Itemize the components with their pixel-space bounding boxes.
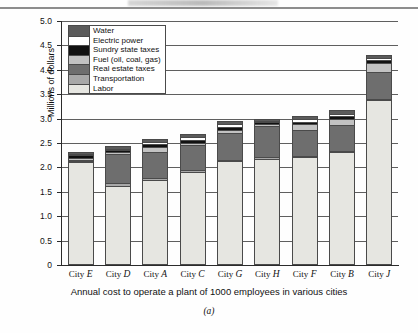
legend-item-water[interactable]: Water (69, 26, 165, 36)
bar-city-g[interactable] (217, 121, 243, 265)
figure-caption: (a) (0, 306, 418, 316)
bar-segment-real-estate-taxes (181, 146, 205, 170)
bar-segment-labor (218, 162, 242, 264)
legend-item-labor[interactable]: Labor (69, 84, 165, 94)
x-axis-title: Annual cost to operate a plant of 1000 e… (0, 286, 418, 297)
y-axis-tick (57, 265, 62, 266)
legend-item-electric-power[interactable]: Electric power (69, 36, 165, 46)
bar-segment-real-estate-taxes (330, 126, 354, 151)
bar-city-a[interactable] (142, 139, 168, 265)
top-horizontal-rule (0, 7, 418, 9)
y-axis-tick-label: 0.5 (18, 236, 52, 246)
legend-label: Labor (90, 84, 117, 94)
legend-label: Electric power (90, 36, 147, 46)
legend-swatch-icon (69, 55, 90, 65)
legend-swatch-icon (69, 36, 90, 46)
y-axis-tick-label: 1.0 (18, 211, 52, 221)
bar-city-e[interactable] (68, 152, 94, 265)
bar-segment-real-estate-taxes (255, 127, 279, 158)
bar-segment-fuel-oil-coal-gas (367, 64, 391, 73)
bar-segment-real-estate-taxes (218, 134, 242, 160)
legend-label: Real estate taxes (90, 64, 159, 74)
bar-segment-labor (106, 187, 130, 264)
y-axis-tick-label: 3.0 (18, 114, 52, 124)
bar-city-j[interactable] (366, 55, 392, 265)
bar-city-h[interactable] (254, 119, 280, 265)
bar-segment-labor (181, 173, 205, 264)
page-bleed-artifact (128, 0, 278, 6)
x-axis-label-city-j: City J (353, 269, 405, 279)
y-axis-tick-label: 5.0 (18, 16, 52, 26)
bar-segment-real-estate-taxes (106, 155, 130, 184)
bar-segment-real-estate-taxes (367, 73, 391, 99)
bar-city-b[interactable] (329, 110, 355, 265)
figure-container: Millions of dollars 00.51.01.52.02.53.03… (0, 0, 418, 333)
bar-segment-labor (367, 101, 391, 264)
bar-city-f[interactable] (292, 116, 318, 265)
bar-city-d[interactable] (105, 146, 131, 265)
bar-segment-real-estate-taxes (143, 153, 167, 178)
bar-segment-labor (293, 158, 317, 264)
bar-segment-real-estate-taxes (293, 131, 317, 156)
y-axis-tick-label: 4.0 (18, 65, 52, 75)
legend-label: Sundry state taxes (90, 45, 163, 55)
legend-label: Fuel (oil, coal, gas) (90, 55, 165, 65)
y-axis-tick-label: 3.5 (18, 89, 52, 99)
bar-segment-labor (69, 163, 93, 264)
legend-swatch-icon (69, 74, 90, 84)
legend-swatch-icon (69, 26, 90, 36)
legend-item-real-estate-taxes[interactable]: Real estate taxes (69, 64, 165, 74)
y-axis-tick-label: 2.0 (18, 162, 52, 172)
x-axis-line (61, 265, 399, 266)
legend-label: Transportation (90, 74, 148, 84)
legend: WaterElectric powerSundry state taxesFue… (68, 25, 166, 94)
bar-segment-labor (255, 160, 279, 264)
y-axis-tick-label: 0 (18, 260, 52, 270)
legend-item-fuel-oil-coal-gas[interactable]: Fuel (oil, coal, gas) (69, 55, 165, 65)
bar-segment-labor (143, 181, 167, 264)
y-axis-tick-label: 4.5 (18, 40, 52, 50)
y-axis-tick-label: 2.5 (18, 138, 52, 148)
legend-swatch-icon (69, 64, 90, 74)
legend-item-transportation[interactable]: Transportation (69, 74, 165, 84)
bar-segment-labor (330, 153, 354, 264)
bar-city-c[interactable] (180, 134, 206, 265)
legend-label: Water (90, 26, 118, 36)
legend-item-sundry-state-taxes[interactable]: Sundry state taxes (69, 45, 165, 55)
y-axis-tick-label: 1.5 (18, 187, 52, 197)
legend-swatch-icon (69, 84, 90, 94)
y-axis-title: Millions of dollars (46, 48, 56, 117)
legend-swatch-icon (69, 45, 90, 55)
